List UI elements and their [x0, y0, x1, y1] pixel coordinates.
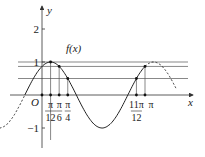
x-tick-label: π4: [65, 99, 71, 123]
curve-point: [49, 61, 52, 64]
x-tick-label: π12: [45, 99, 56, 123]
function-label: f(x): [66, 42, 82, 55]
y-axis-label: y: [46, 4, 52, 16]
x-tick-numerator: π: [48, 99, 53, 110]
x-axis-label: x: [187, 96, 193, 108]
origin-point: [41, 94, 44, 97]
x-tick-denominator: 6: [57, 112, 62, 123]
x-tick-denominator: 12: [131, 112, 141, 123]
x-tick-label: 11π12: [129, 99, 144, 123]
x-tick-denominator: 12: [46, 112, 56, 123]
x-tick-label: π6: [56, 99, 62, 123]
x-tick-label: π: [148, 99, 153, 110]
function-curve-dashed: [145, 62, 176, 88]
y-tick-label: −1: [27, 122, 39, 134]
axis-point: [144, 94, 147, 97]
curve-point: [144, 65, 147, 68]
y-tick-label: 1: [34, 56, 40, 68]
curve-point: [135, 77, 138, 80]
function-curve-dashed: [0, 95, 25, 128]
axis-point: [66, 94, 69, 97]
x-tick-numerator: π: [57, 99, 62, 110]
curve-point: [66, 77, 69, 80]
curve-point: [58, 65, 61, 68]
x-tick-numerator: 11π: [129, 99, 144, 110]
x-tick-numerator: π: [65, 99, 70, 110]
axis-point: [135, 94, 138, 97]
y-tick-label: 2: [34, 23, 40, 35]
x-tick-denominator: 4: [65, 112, 70, 123]
axis-point: [58, 94, 61, 97]
axis-point: [49, 94, 52, 97]
function-graph: y x O f(x) 21−1 π12π6π411π12π: [0, 0, 205, 157]
origin-label: O: [31, 96, 39, 108]
x-tick-numerator: π: [148, 99, 153, 110]
